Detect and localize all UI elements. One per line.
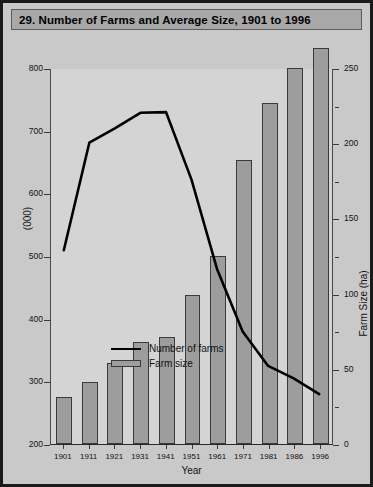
x-tickmark-1971 (243, 445, 244, 449)
chart-legend: Number of farms Farm size (109, 341, 269, 371)
y-right-tickmark-50 (333, 370, 339, 371)
x-tickmark-1901 (63, 445, 64, 449)
y-right-tickmark-100 (333, 295, 339, 296)
line-swatch-icon (109, 348, 143, 350)
x-tickmark-1996 (320, 445, 321, 449)
y-right-tick-0: 0 (344, 439, 349, 449)
y-right-tickmark-150 (333, 219, 339, 220)
y-left-tickmark-200 (44, 445, 50, 446)
y-right-tickmark-75 (335, 332, 339, 333)
chart-title-bar: 29. Number of Farms and Average Size, 19… (11, 9, 362, 30)
y-left-tick-200: 200 (13, 439, 43, 449)
legend-item-line: Number of farms (109, 341, 269, 356)
x-tickmark-1911 (89, 445, 90, 449)
line-series-layer (51, 69, 332, 444)
x-tickmark-1941 (166, 445, 167, 449)
x-tickmark-1981 (269, 445, 270, 449)
y-right-tickmark-175 (335, 182, 339, 183)
y-right-tick-200: 200 (344, 138, 358, 148)
page-title: 29. Number of Farms and Average Size, 19… (19, 14, 311, 26)
x-tick-1911: 1911 (80, 452, 97, 461)
x-axis-labels: 1901191119211931194119511961197119811986… (50, 449, 333, 463)
y-right-tick-50: 50 (344, 364, 353, 374)
y-left-tick-400: 400 (13, 314, 43, 324)
y-left-axis-labels: 800700600500400300200 (11, 69, 43, 445)
y-right-tick-250: 250 (344, 63, 358, 73)
chart-figure: 29. Number of Farms and Average Size, 19… (0, 0, 373, 487)
x-tick-1961: 1961 (208, 452, 226, 461)
x-tick-1981: 1981 (260, 452, 278, 461)
x-tickmark-1931 (140, 445, 141, 449)
legend-item-bar: Farm size (109, 356, 269, 371)
y-right-tickmark-250 (333, 69, 339, 70)
y-right-tickmark-200 (333, 144, 339, 145)
x-tick-1901: 1901 (54, 452, 72, 461)
y-right-tickmark-0 (333, 445, 339, 446)
y-right-tick-150: 150 (344, 213, 358, 223)
plot-area: Number of farms Farm size (50, 69, 333, 445)
y-right-tickmark-225 (335, 107, 339, 108)
bar-swatch-icon (109, 360, 143, 367)
y-left-tick-300: 300 (13, 376, 43, 386)
x-tick-1941: 1941 (157, 452, 175, 461)
y-left-tick-600: 600 (13, 188, 43, 198)
x-axis-title: Year (50, 465, 333, 476)
y-right-tickmark-125 (335, 257, 339, 258)
y-left-tick-500: 500 (13, 251, 43, 261)
x-tick-1921: 1921 (105, 452, 123, 461)
y-right-tickmark-25 (335, 407, 339, 408)
y-right-tick-100: 100 (344, 289, 358, 299)
y-right-axis-labels: 050100150200250 (340, 69, 370, 445)
x-tick-1986: 1986 (286, 452, 304, 461)
x-tickmark-1986 (294, 445, 295, 449)
legend-label-bar: Farm size (149, 358, 193, 369)
legend-label-line: Number of farms (149, 343, 223, 354)
x-tick-1951: 1951 (183, 452, 201, 461)
x-tickmark-1951 (192, 445, 193, 449)
y-left-tick-800: 800 (13, 63, 43, 73)
x-tickmark-1921 (114, 445, 115, 449)
x-tickmark-1961 (217, 445, 218, 449)
x-tick-1996: 1996 (311, 452, 329, 461)
x-tick-1931: 1931 (131, 452, 149, 461)
x-tick-1971: 1971 (234, 452, 252, 461)
y-left-tick-700: 700 (13, 126, 43, 136)
